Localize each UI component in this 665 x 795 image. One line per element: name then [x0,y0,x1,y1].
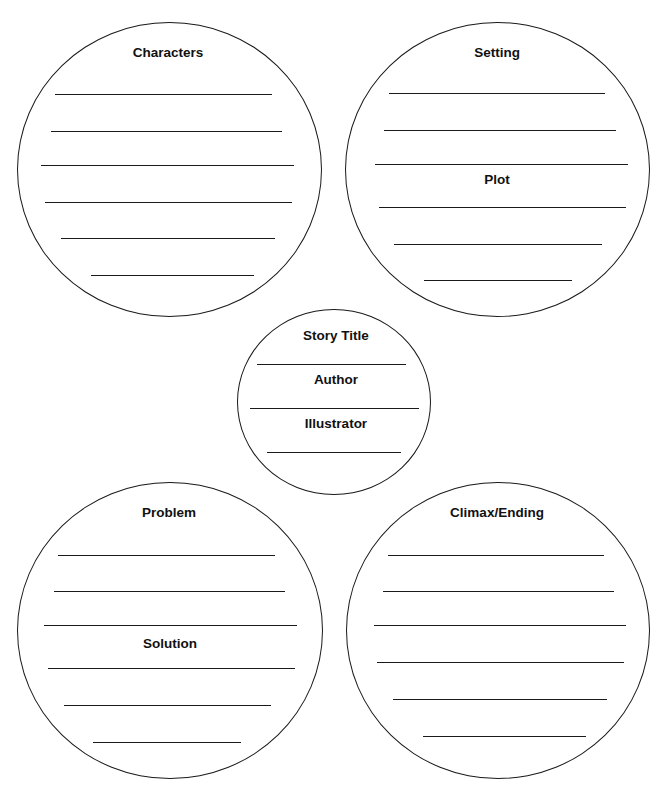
writing-line[interactable] [423,736,586,737]
writing-line[interactable] [393,699,607,700]
heading-setting: Setting [474,45,520,60]
writing-line[interactable] [64,705,271,706]
writing-line[interactable] [45,202,292,203]
writing-line[interactable] [55,94,272,95]
writing-line[interactable] [93,742,241,743]
writing-line[interactable] [250,408,419,409]
writing-line[interactable] [384,130,616,131]
writing-line[interactable] [257,364,406,365]
writing-line[interactable] [48,668,295,669]
writing-line[interactable] [267,452,401,453]
writing-line[interactable] [379,207,626,208]
heading-characters: Characters [133,45,204,60]
writing-line[interactable] [377,662,624,663]
writing-line[interactable] [383,591,614,592]
writing-line[interactable] [41,165,294,166]
circle-climax-ending [346,482,650,779]
heading-author: Author [314,372,358,387]
circle-setting-plot [345,22,650,317]
writing-line[interactable] [54,591,285,592]
heading-illustrator: Illustrator [305,416,367,431]
writing-line[interactable] [374,625,626,626]
circle-characters [17,22,322,317]
heading-climax-ending: Climax/Ending [450,505,544,520]
writing-line[interactable] [394,244,602,245]
heading-problem: Problem [142,505,196,520]
writing-line[interactable] [61,238,275,239]
writing-line[interactable] [58,555,275,556]
writing-line[interactable] [424,280,572,281]
writing-line[interactable] [388,555,604,556]
writing-line[interactable] [51,131,282,132]
writing-line[interactable] [375,164,628,165]
heading-story-title: Story Title [303,328,369,343]
writing-line[interactable] [44,625,297,626]
heading-plot: Plot [484,172,510,187]
writing-line[interactable] [389,93,605,94]
writing-line[interactable] [91,275,254,276]
circle-problem-solution [17,482,323,779]
heading-solution: Solution [143,636,197,651]
